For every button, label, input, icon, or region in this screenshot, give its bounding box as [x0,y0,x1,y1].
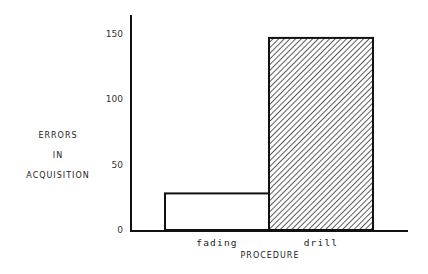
bar-chart: ERRORS IN ACQUISITION 0 50 100 150 fadin… [0,0,428,274]
category-labels: fading drill [196,237,338,248]
bar-drill [269,38,373,230]
category-label-fading: fading [196,237,238,248]
category-label-drill: drill [304,237,339,248]
y-tick-label: 150 [106,29,123,39]
y-tick-label: 50 [112,160,124,170]
bar-fading [165,193,269,230]
bars [165,38,373,230]
y-axis-title-line-2: IN [53,151,63,160]
y-axis-title-line-3: ACQUISITION [26,171,89,180]
y-tick-label: 100 [106,94,123,104]
y-axis-title: ERRORS IN ACQUISITION [26,131,89,180]
y-tick-label: 0 [117,225,123,235]
y-axis-title-line-1: ERRORS [38,131,77,140]
y-tick-labels: 0 50 100 150 [106,29,123,235]
x-axis-title: PROCEDURE [241,251,300,260]
